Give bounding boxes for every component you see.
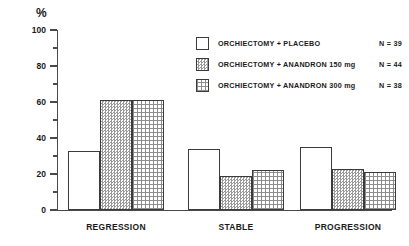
bar: [252, 170, 284, 210]
category-label: STABLE: [188, 222, 284, 232]
bar-chart: % 100806040200 REGRESSIONSTABLEPROGRESSI…: [0, 0, 409, 246]
bar: [132, 100, 164, 210]
bar: [220, 176, 252, 210]
category-label: PROGRESSION: [300, 222, 396, 232]
bar: [332, 169, 364, 210]
legend-item: ORCHIECTOMY + ANANDRON 150 mgN = 44: [196, 57, 402, 72]
legend-item: ORCHIECTOMY + PLACEBON = 39: [196, 36, 402, 51]
legend-sample-size: N = 44: [379, 60, 402, 69]
legend-sample-size: N = 39: [379, 39, 402, 48]
legend-swatch-icon: [196, 37, 209, 50]
legend-label: ORCHIECTOMY + ANANDRON 300 mg: [218, 81, 356, 90]
category-label: REGRESSION: [68, 222, 164, 232]
bar: [100, 100, 132, 210]
legend-label: ORCHIECTOMY + PLACEBO: [218, 39, 320, 48]
bar: [300, 147, 332, 210]
legend-label: ORCHIECTOMY + ANANDRON 150 mg: [218, 60, 356, 69]
bar: [68, 151, 100, 210]
chart-legend: ORCHIECTOMY + PLACEBON = 39ORCHIECTOMY +…: [196, 36, 402, 99]
bar: [188, 149, 220, 210]
legend-item: ORCHIECTOMY + ANANDRON 300 mgN = 38: [196, 78, 402, 93]
legend-swatch-icon: [196, 58, 209, 71]
legend-swatch-icon: [196, 79, 209, 92]
bar: [364, 172, 396, 210]
legend-sample-size: N = 38: [379, 81, 402, 90]
